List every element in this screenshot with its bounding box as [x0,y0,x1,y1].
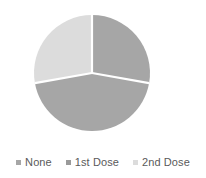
pie-slice-1st-dose[interactable] [35,73,149,131]
pie-slice-2nd-dose[interactable] [34,15,92,83]
square-marker-icon-none [16,160,21,165]
chart-legend: None 1st Dose 2nd Dose [0,150,206,174]
square-marker-icon-1st-dose [66,160,71,165]
pie-plot-area [0,0,206,146]
legend-label-none: None [25,156,52,168]
legend-label-1st-dose: 1st Dose [75,156,119,168]
pie-svg [0,0,206,146]
pie-slice-none[interactable] [92,15,150,83]
legend-item-none[interactable]: None [16,156,52,168]
pie-chart-figure: None 1st Dose 2nd Dose [0,0,206,178]
legend-item-2nd-dose[interactable]: 2nd Dose [133,156,190,168]
legend-item-1st-dose[interactable]: 1st Dose [66,156,119,168]
legend-label-2nd-dose: 2nd Dose [142,156,190,168]
square-marker-icon-2nd-dose [133,160,138,165]
